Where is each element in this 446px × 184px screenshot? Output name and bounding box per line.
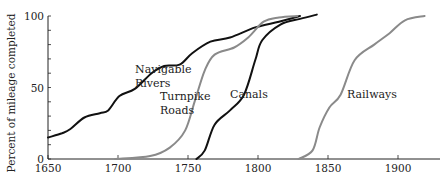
x-tick-label: 1850: [315, 162, 342, 174]
series-line-canals: [196, 15, 316, 159]
x-tick-label: 1700: [105, 162, 132, 174]
x-tick-label: 1750: [175, 162, 202, 174]
series-lines: [48, 15, 425, 159]
x-tick-label: 1800: [245, 162, 272, 174]
x-tick-label: 1900: [385, 162, 412, 174]
mileage-completion-chart: 050100165017001750180018501900 Navigable…: [0, 0, 446, 184]
annotation-railways: Railways: [347, 88, 397, 101]
annotation-canals: Canals: [230, 88, 268, 101]
annotation-navigable-rivers: NavigableRivers: [135, 63, 192, 90]
annotation-turnpike-roads: TurnpikeRoads: [160, 90, 211, 117]
curve-annotations: NavigableRiversTurnpikeRoadsCanalsRailwa…: [135, 63, 397, 117]
x-tick-label: 1650: [35, 162, 62, 174]
y-axis-label: Percent of mileage completed: [5, 13, 17, 172]
y-tick-label: 50: [31, 82, 44, 94]
y-tick-label: 100: [24, 10, 44, 22]
series-line-navigable-rivers: [48, 16, 300, 138]
